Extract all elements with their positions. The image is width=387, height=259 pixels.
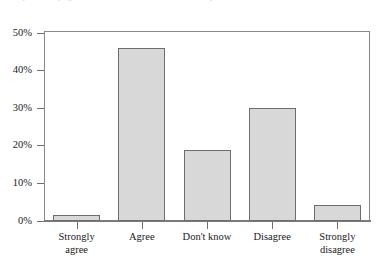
- x-axis-tick: [77, 222, 78, 229]
- x-axis-tick: [207, 222, 208, 229]
- y-axis-label: 50%: [0, 28, 32, 38]
- x-axis-label-line: disagree: [305, 244, 370, 257]
- bar: [314, 205, 361, 221]
- bar: [184, 150, 231, 221]
- y-axis-label: 30%: [0, 103, 32, 113]
- y-axis-tick: [37, 33, 44, 34]
- y-axis-label: 10%: [0, 178, 32, 188]
- y-axis-tick: [37, 70, 44, 71]
- y-axis-label: 40%: [0, 65, 32, 75]
- cropped-caption-text: the top of this page is the cut-off tail…: [0, 0, 387, 5]
- y-axis-tick: [37, 145, 44, 146]
- x-axis-label-line: Don't know: [174, 231, 239, 244]
- y-axis-tick: [37, 183, 44, 184]
- x-axis-label-line: Disagree: [240, 231, 305, 244]
- x-axis-tick: [142, 222, 143, 229]
- x-axis-label: Stronglyagree: [44, 231, 109, 256]
- bar: [53, 215, 100, 221]
- bar-chart-figure: the top of this page is the cut-off tail…: [0, 0, 387, 259]
- bar: [249, 108, 296, 221]
- y-axis-label: 20%: [0, 140, 32, 150]
- y-axis-tick: [37, 221, 44, 222]
- x-axis-label-line: agree: [44, 244, 109, 257]
- y-axis-label: 0%: [0, 216, 32, 226]
- x-axis-tick: [272, 222, 273, 229]
- x-axis-tick: [337, 222, 338, 229]
- x-axis-label: Stronglydisagree: [305, 231, 370, 256]
- x-axis-label: Agree: [109, 231, 174, 244]
- y-axis-tick: [37, 108, 44, 109]
- bar: [118, 48, 165, 221]
- x-axis-label-line: Strongly: [305, 231, 370, 244]
- x-axis-label: Disagree: [240, 231, 305, 244]
- x-axis-label-line: Agree: [109, 231, 174, 244]
- x-axis-label-line: Strongly: [44, 231, 109, 244]
- x-axis-label: Don't know: [174, 231, 239, 244]
